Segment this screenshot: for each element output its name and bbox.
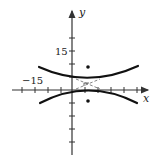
focus-point-lower xyxy=(86,99,90,103)
hyperbola-graph: y x 15 −15 xyxy=(0,0,161,163)
y-axis-label: y xyxy=(78,6,86,19)
hyperbola-curve xyxy=(39,66,138,103)
y-axis xyxy=(69,11,75,155)
y-tick-label-15: 15 xyxy=(55,46,68,57)
x-tick-label-neg15: −15 xyxy=(22,75,43,86)
focus-point-upper xyxy=(86,65,90,69)
asymptotes xyxy=(76,79,100,89)
x-axis-label: x xyxy=(143,92,150,105)
